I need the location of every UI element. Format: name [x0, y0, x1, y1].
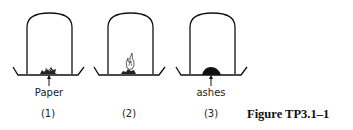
panel-3: ashes (3) — [176, 13, 247, 119]
crumpled-paper — [40, 67, 57, 74]
pointer-arrow — [209, 75, 213, 86]
panel-2: (2) — [94, 13, 165, 119]
pointer-arrow — [47, 75, 51, 86]
panel-number: (2) — [122, 108, 136, 119]
panel-number: (1) — [41, 108, 55, 119]
ash-pile — [202, 67, 221, 75]
bell-jar — [108, 13, 153, 74]
panel-number: (3) — [204, 108, 218, 119]
label-paper: Paper — [35, 87, 64, 98]
label-ashes: ashes — [196, 87, 225, 98]
bell-jar — [27, 13, 72, 74]
figure-caption: Figure TP3.1–1 — [247, 107, 329, 121]
panel-1: Paper (1) — [13, 13, 84, 119]
bell-jar — [190, 13, 235, 74]
flame-icon — [126, 53, 134, 69]
burning-paper — [121, 53, 136, 74]
figure-diagram: Paper (1) (2) ashes (3) Figure TP3.1–1 — [0, 0, 353, 130]
